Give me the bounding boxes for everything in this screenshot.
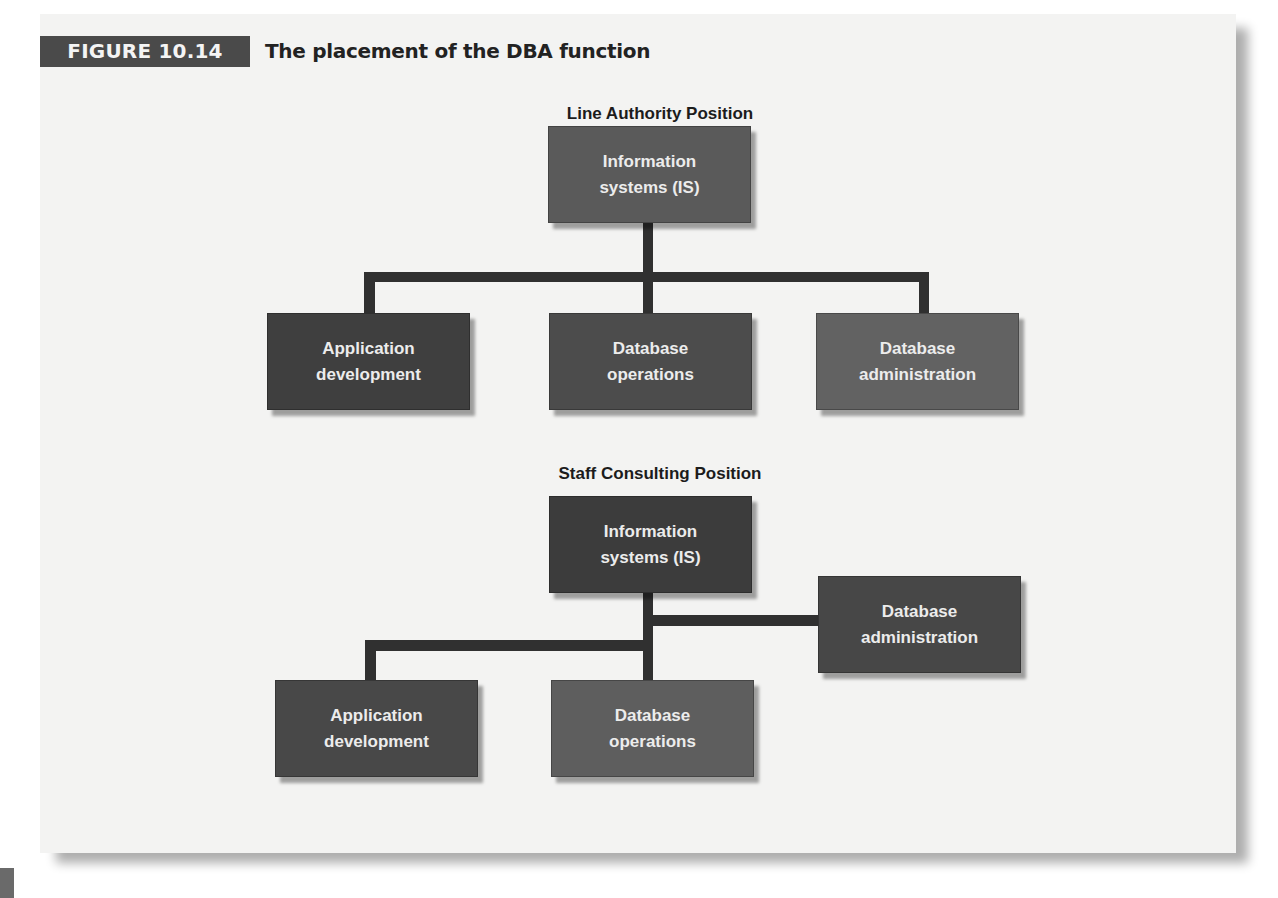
- box-text-line1: Application: [316, 336, 421, 362]
- box-text-line2: systems (IS): [600, 545, 700, 571]
- la-information-systems-box: Informationsystems (IS): [548, 126, 751, 223]
- box-text-line1: Information: [600, 519, 700, 545]
- sc-left-drop-connector: [365, 640, 376, 681]
- la-database-administration-box: Databaseadministration: [816, 313, 1019, 410]
- box-text-line1: Database: [607, 336, 694, 362]
- figure-label: FIGURE 10.14: [40, 36, 250, 67]
- line-authority-heading: Line Authority Position: [540, 104, 780, 124]
- box-text-line2: systems (IS): [599, 175, 699, 201]
- sc-trunk-connector: [643, 592, 653, 681]
- sc-information-systems-box: Informationsystems (IS): [549, 496, 752, 593]
- figure-title: The placement of the DBA function: [265, 36, 650, 67]
- la-trunk-connector: [643, 222, 653, 314]
- la-application-development-box: Applicationdevelopment: [267, 313, 470, 410]
- box-text-line1: Database: [861, 599, 978, 625]
- box-text-line1: Application: [324, 703, 429, 729]
- box-text-line1: Database: [609, 703, 696, 729]
- la-left-drop-connector: [364, 272, 375, 314]
- sc-database-operations-box: Databaseoperations: [551, 680, 754, 777]
- box-text-line2: operations: [607, 362, 694, 388]
- box-text-line1: Database: [859, 336, 976, 362]
- box-text-line2: administration: [859, 362, 976, 388]
- sc-staff-branch-connector: [652, 615, 820, 626]
- sc-application-development-box: Applicationdevelopment: [275, 680, 478, 777]
- la-right-drop-connector: [919, 272, 929, 314]
- box-text-line2: operations: [609, 729, 696, 755]
- box-text-line1: Information: [599, 149, 699, 175]
- staff-consulting-heading: Staff Consulting Position: [530, 464, 790, 484]
- box-text-line2: development: [316, 362, 421, 388]
- sc-left-branch-connector: [365, 640, 645, 651]
- box-text-line2: development: [324, 729, 429, 755]
- sc-database-administration-box: Databaseadministration: [818, 576, 1021, 673]
- la-database-operations-box: Databaseoperations: [549, 313, 752, 410]
- box-text-line2: administration: [861, 625, 978, 651]
- la-horizontal-connector: [364, 272, 929, 282]
- page-edge-tab: [0, 868, 14, 898]
